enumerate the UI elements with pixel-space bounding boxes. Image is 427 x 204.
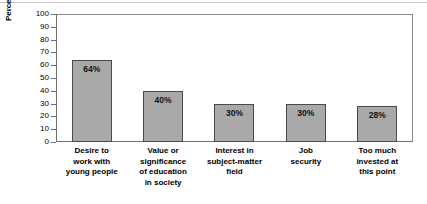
y-axis-tick-label: 50 (40, 73, 49, 83)
y-axis-tick-label: 60 (40, 60, 49, 70)
y-axis-tick-label: 40 (40, 86, 49, 96)
y-axis-tick-label: 20 (40, 111, 49, 121)
y-axis-tick-label: 90 (40, 22, 49, 32)
bar: 30% (214, 104, 254, 142)
bar-value-label: 40% (144, 95, 182, 105)
category-label-line: of education (122, 167, 204, 178)
bar: 30% (286, 104, 326, 142)
y-axis-tick-label: 80 (40, 35, 49, 45)
bar: 40% (143, 91, 183, 142)
category-label: Value orsignificanceof educationin socie… (122, 146, 204, 188)
bars-layer: 64%40%30%30%28% (56, 14, 413, 142)
category-label: Interest insubject-matterfield (194, 146, 276, 178)
category-labels: Desire towork withyoung peopleValue orsi… (56, 146, 413, 204)
category-label-line: subject-matter (194, 157, 276, 168)
category-label-line: Job (265, 146, 347, 157)
category-label-line: Desire to (51, 146, 133, 157)
category-label-line: work with (51, 157, 133, 168)
y-axis-tick-label: 10 (40, 124, 49, 134)
category-label-line: in society (122, 178, 204, 189)
y-axis-tick-label: 100 (36, 9, 49, 19)
bar-value-label: 28% (358, 110, 396, 120)
category-label: Desire towork withyoung people (51, 146, 133, 178)
category-label: Jobsecurity (265, 146, 347, 167)
bar: 28% (357, 106, 397, 142)
category-label-line: Interest in (194, 146, 276, 157)
bar-value-label: 30% (287, 108, 325, 118)
y-axis-tick-label: 30 (40, 99, 49, 109)
y-axis-tick-label: 0 (45, 137, 49, 147)
bar-slot: 28% (342, 14, 413, 142)
category-label-line: significance (122, 157, 204, 168)
category-label: Too muchinvested atthis point (336, 146, 418, 178)
bar: 64% (72, 60, 112, 142)
category-label-line: security (265, 157, 347, 168)
category-label-line: this point (336, 167, 418, 178)
category-label-line: Value or (122, 146, 204, 157)
bar-slot: 30% (199, 14, 270, 142)
bar-value-label: 64% (73, 64, 111, 74)
bar-slot: 30% (270, 14, 341, 142)
bar-slot: 64% (56, 14, 127, 142)
category-label-line: field (194, 167, 276, 178)
category-label-line: invested at (336, 157, 418, 168)
y-axis-tick-mark (51, 142, 56, 143)
page-top-rule (0, 2, 427, 3)
bar-value-label: 30% (215, 108, 253, 118)
y-axis: 1009080706050403020100 (0, 0, 56, 156)
category-label-line: Too much (336, 146, 418, 157)
category-label-line: young people (51, 167, 133, 178)
y-axis-tick-label: 70 (40, 47, 49, 57)
bar-slot: 40% (127, 14, 198, 142)
